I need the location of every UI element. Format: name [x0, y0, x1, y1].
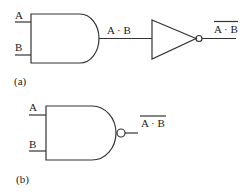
input-b-label: B	[29, 138, 36, 150]
nand-gate-body	[46, 106, 116, 160]
logic-diagram: A B A · B A · B (a) A · B A B (b)	[0, 0, 250, 192]
input-a-label: A	[29, 101, 37, 113]
nand-result-label-a: A · B	[214, 23, 238, 35]
inverter-a: A · B	[152, 20, 238, 59]
input-a-label: A	[15, 9, 23, 21]
and-output-label: A · B	[107, 24, 131, 36]
and-gate-a: A B	[15, 9, 99, 63]
caption-a: (a)	[14, 75, 27, 88]
inverter-triangle	[152, 20, 196, 59]
nand-gate-b: A · B A B	[29, 101, 166, 160]
input-b-label: B	[15, 41, 22, 53]
and-gate-body	[31, 14, 99, 63]
caption-b: (b)	[16, 173, 29, 186]
inversion-bubble	[117, 129, 125, 137]
nand-result-label-b: A · B	[141, 117, 165, 129]
